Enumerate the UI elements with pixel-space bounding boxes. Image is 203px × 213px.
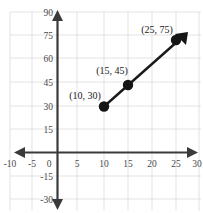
x-tick-25: 25 <box>171 159 181 169</box>
y-tick-15: 15 <box>44 125 54 135</box>
x-tick-5: 5 <box>75 159 80 169</box>
x-tick-10: 10 <box>99 159 109 169</box>
y-tick-neg15: -15 <box>40 172 53 182</box>
x-tick-20: 20 <box>147 159 157 169</box>
x-tick-neg5: -5 <box>28 159 36 169</box>
y-tick-90: 90 <box>44 8 54 18</box>
x-tick-zero: 0 <box>47 159 52 169</box>
x-axis <box>14 147 198 158</box>
data-point-15-45 <box>123 80 133 90</box>
chart-canvas: 90 75 60 45 30 15 -15 -30 -10 -5 0 5 10 … <box>0 0 203 213</box>
y-axis-bottom-arrow-icon <box>52 199 63 210</box>
data-point-10-30 <box>99 101 109 111</box>
y-tick-neg30: -30 <box>40 195 53 205</box>
x-axis-left-arrow-icon <box>14 147 25 158</box>
x-tick-30: 30 <box>192 159 202 169</box>
y-axis <box>52 10 63 210</box>
data-point-label-25-75: (25, 75) <box>141 24 173 36</box>
data-point-25-75 <box>171 35 181 45</box>
x-axis-right-arrow-icon <box>187 147 198 158</box>
x-tick-15: 15 <box>123 159 133 169</box>
y-tick-75: 75 <box>44 31 54 41</box>
data-point-label-15-45: (15, 45) <box>96 65 128 77</box>
y-tick-30: 30 <box>44 102 54 112</box>
x-axis-tick-labels: -10 -5 0 5 10 15 20 25 30 <box>4 159 202 169</box>
y-tick-60: 60 <box>44 54 54 64</box>
y-tick-45: 45 <box>44 78 54 88</box>
x-tick-neg10: -10 <box>4 159 17 169</box>
coordinate-plane-chart: 90 75 60 45 30 15 -15 -30 -10 -5 0 5 10 … <box>0 0 203 213</box>
data-point-label-10-30: (10, 30) <box>69 90 101 102</box>
y-axis-tick-labels: 90 75 60 45 30 15 -15 -30 <box>40 8 53 205</box>
